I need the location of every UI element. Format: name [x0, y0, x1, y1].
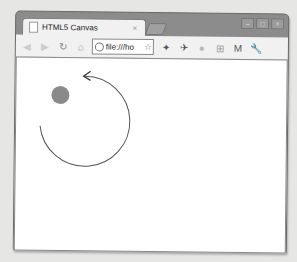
- page-info-icon: [95, 42, 104, 51]
- window-controls: – □ ×: [241, 18, 284, 29]
- back-button[interactable]: ◀: [20, 39, 34, 53]
- canvas-drawing: [15, 58, 287, 253]
- mail-icon[interactable]: M: [232, 42, 244, 53]
- page-icon: [29, 22, 38, 33]
- home-button[interactable]: ⌂: [74, 39, 88, 53]
- circle-icon[interactable]: ●: [196, 42, 208, 53]
- address-bar[interactable]: file:///ho ☆: [92, 38, 154, 55]
- toolbar: ◀ ▶ ↻ ⌂ file:///ho ☆ ✦ ✈ ● ⊞ M 🔧: [16, 35, 288, 60]
- maximize-button[interactable]: □: [256, 18, 269, 29]
- reload-button[interactable]: ↻: [56, 39, 70, 53]
- wand-icon[interactable]: ✦: [160, 42, 172, 53]
- wrench-icon[interactable]: 🔧: [250, 43, 262, 54]
- gray-ball: [51, 86, 69, 104]
- tab-title: HTML5 Canvas: [42, 23, 132, 33]
- forward-button[interactable]: ▶: [38, 39, 52, 53]
- browser-window: HTML5 Canvas × – □ × ◀ ▶ ↻ ⌂ file:///ho …: [13, 11, 289, 254]
- circular-arrow-arc: [40, 76, 131, 167]
- plus-box-icon[interactable]: ⊞: [214, 42, 226, 53]
- address-input[interactable]: file:///ho: [106, 42, 144, 51]
- tab-close-icon[interactable]: ×: [132, 24, 137, 33]
- plane-icon[interactable]: ✈: [178, 42, 190, 53]
- new-tab-button[interactable]: [145, 23, 167, 35]
- arrowhead-icon: [84, 71, 91, 80]
- minimize-button[interactable]: –: [241, 18, 254, 29]
- canvas-area: [14, 57, 288, 254]
- bookmark-star-icon[interactable]: ☆: [144, 42, 152, 52]
- close-window-button[interactable]: ×: [271, 18, 284, 29]
